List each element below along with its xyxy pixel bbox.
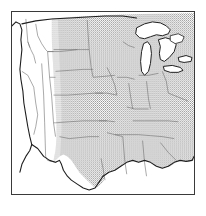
map-frame xyxy=(11,11,195,195)
map-figure xyxy=(0,0,206,216)
map-canvas xyxy=(12,12,194,194)
lake-ontario xyxy=(178,56,192,63)
